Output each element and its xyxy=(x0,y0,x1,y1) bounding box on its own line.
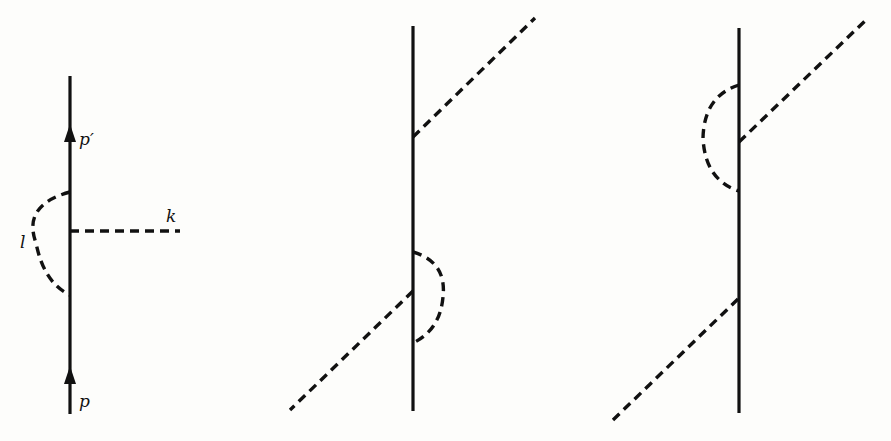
arrow-up-icon xyxy=(64,366,76,384)
diagram-external-leg-upper xyxy=(613,18,868,420)
loop-photon-line xyxy=(413,252,443,343)
external-photon-line xyxy=(613,299,738,420)
loop-photon-line xyxy=(703,85,739,191)
arrow-up-icon xyxy=(64,124,76,142)
diagram-external-leg-lower xyxy=(290,18,535,411)
label-l: l xyxy=(20,232,25,252)
label-p-prime: p′ xyxy=(79,129,94,149)
external-photon-line xyxy=(290,291,413,410)
feynman-diagram-figure: p′ p l k xyxy=(0,0,891,441)
diagram-vertex-correction: p′ p l k xyxy=(20,76,180,414)
label-p: p xyxy=(79,391,90,411)
external-photon-line xyxy=(739,18,868,142)
external-photon-line xyxy=(413,18,535,137)
loop-photon-line xyxy=(33,192,70,295)
label-k: k xyxy=(166,206,176,226)
